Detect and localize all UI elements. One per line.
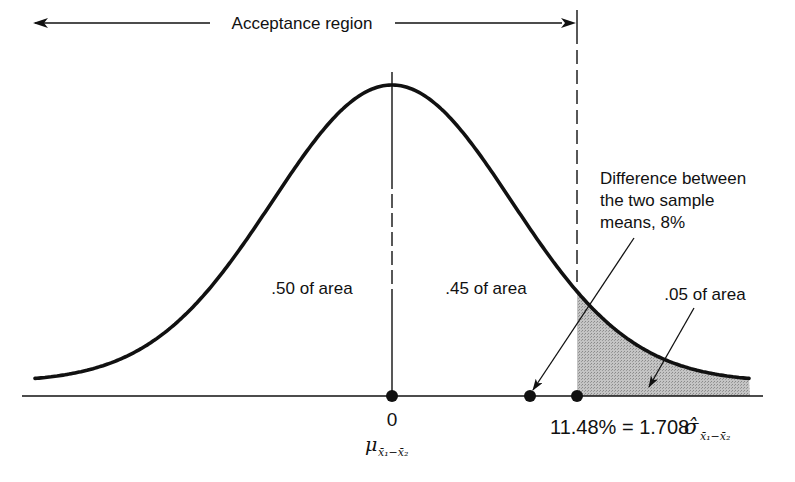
zero-label: 0	[387, 409, 398, 430]
middle-area-label: .45 of area	[445, 279, 527, 298]
svg-text:x̄₁−x̄₂: x̄₁−x̄₂	[378, 446, 408, 459]
acceptance-region-arrow: Acceptance region	[33, 14, 576, 33]
tail-area-label: .05 of area	[664, 285, 746, 304]
rejection-tail-shade	[577, 292, 750, 397]
svg-text:11.48% = 1.708: 11.48% = 1.708	[550, 416, 689, 438]
acceptance-region-label: Acceptance region	[232, 14, 373, 33]
critical-value-point	[571, 390, 583, 402]
difference-label-line-1: Difference between	[600, 169, 746, 188]
normal-distribution-diagram: Acceptance region .50 of area .45 of are…	[0, 0, 795, 482]
difference-label-line-3: means, 8%	[600, 213, 685, 232]
svg-text:μ: μ	[365, 433, 377, 455]
svg-text:σ̂: σ̂	[684, 415, 699, 439]
difference-label-line-2: the two sample	[600, 191, 714, 210]
svg-text:x̄₁−x̄₂: x̄₁−x̄₂	[700, 430, 730, 443]
difference-point	[524, 390, 536, 402]
mean-symbol-label: μ x̄₁−x̄₂	[365, 433, 408, 459]
left-area-label: .50 of area	[271, 279, 353, 298]
critical-value-label: 11.48% = 1.708 σ̂ x̄₁−x̄₂	[550, 415, 730, 443]
mean-point	[386, 390, 398, 402]
